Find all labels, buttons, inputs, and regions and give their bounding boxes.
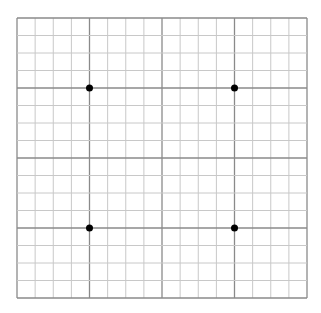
grid-point xyxy=(231,85,238,92)
grid-point xyxy=(86,225,93,232)
grid-diagram xyxy=(0,0,321,313)
grid-point xyxy=(231,225,238,232)
grid-point xyxy=(86,85,93,92)
